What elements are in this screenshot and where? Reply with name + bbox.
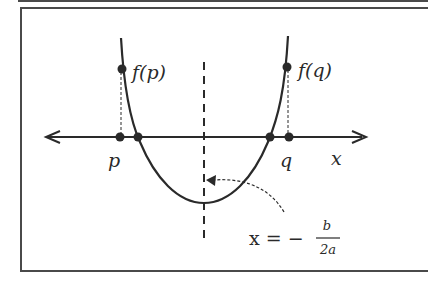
label-q: q <box>280 149 292 171</box>
point-f-p <box>118 65 127 74</box>
point-p <box>116 133 125 142</box>
label-x-axis: x <box>331 147 342 169</box>
vertex-pointer-arrow <box>214 180 284 212</box>
point-right-root <box>266 133 275 142</box>
point-q <box>285 133 294 142</box>
axis-equation-numerator: b <box>323 218 331 233</box>
parabola-diagram: f(p) f(q) p q x x = − b 2a <box>0 0 428 284</box>
arrow-head-icon <box>206 175 216 186</box>
point-left-root <box>134 133 143 142</box>
axis-equation-denominator: 2a <box>319 242 336 257</box>
label-f-p: f(p) <box>130 61 166 83</box>
label-p: p <box>108 149 120 171</box>
axis-equation-lhs: x = − <box>249 227 304 249</box>
point-f-q <box>283 63 292 72</box>
label-f-q: f(q) <box>296 59 332 81</box>
frame <box>21 8 428 271</box>
